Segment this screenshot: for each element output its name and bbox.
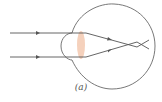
eyeball-outline: [61, 4, 155, 89]
arrow-icon: [36, 55, 40, 59]
eye-diagram: (a): [0, 0, 162, 102]
figure-caption: (a): [0, 82, 162, 92]
arrow-icon: [107, 37, 112, 41]
arrow-icon: [36, 31, 40, 35]
lens: [77, 31, 85, 59]
